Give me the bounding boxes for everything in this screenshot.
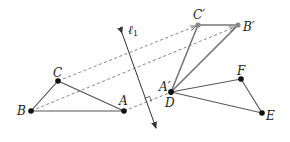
point-e	[259, 110, 265, 116]
label-f: F	[236, 64, 246, 78]
point-b	[28, 108, 34, 114]
dashed-mapping-c	[58, 26, 196, 81]
label-c: C	[53, 66, 62, 80]
label-b-prime: B′	[242, 20, 255, 34]
label-line-l1: ℓ1	[128, 23, 138, 38]
reflection-line-l1	[122, 33, 156, 128]
reflection-diagram: A B C C′ B′ A′ D E F ℓ1	[0, 0, 290, 142]
point-c-prime	[195, 22, 200, 27]
triangle-abc	[31, 81, 124, 111]
label-c-prime: C′	[193, 8, 205, 22]
label-a: A	[118, 94, 128, 108]
label-b: B	[16, 104, 26, 118]
label-a-prime: A′	[158, 80, 171, 94]
line-subscript: 1	[133, 29, 138, 38]
diagram-canvas: A B C C′ B′ A′ D E F ℓ1	[0, 0, 290, 142]
point-b-prime	[235, 22, 240, 27]
label-d: D	[164, 96, 175, 110]
point-a	[121, 108, 127, 114]
label-e: E	[265, 109, 275, 123]
triangle-def	[171, 79, 262, 113]
